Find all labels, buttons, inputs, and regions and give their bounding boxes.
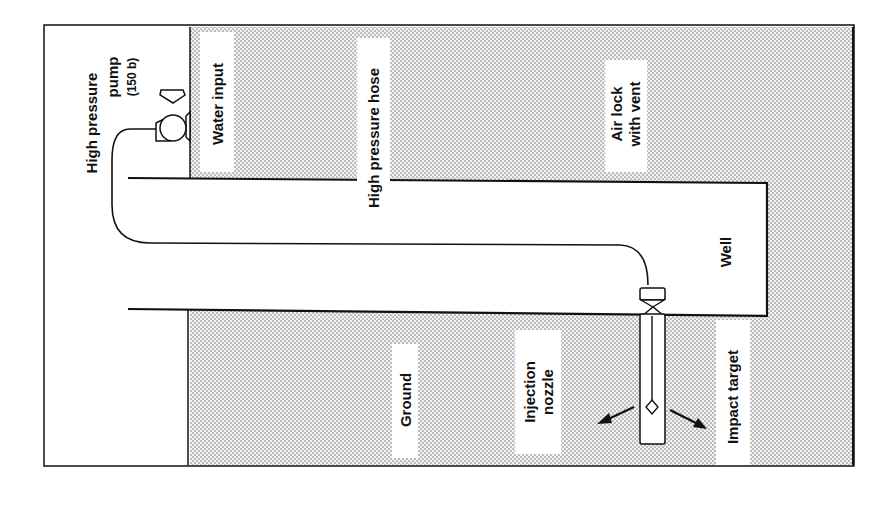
air-lock-label-line2: with vent xyxy=(626,81,643,147)
pump-label-line2: pump xyxy=(104,57,121,98)
nozzle-label-line1: Injection xyxy=(521,361,538,423)
well-label: Well xyxy=(717,237,734,268)
air-lock-label-line1: Air lock xyxy=(608,86,625,142)
nozzle-label-line2: nozzle xyxy=(539,369,556,415)
water-injection-diagram: High pressure pump (150 b) Water input H… xyxy=(0,0,876,510)
impact-target-label: Impact target xyxy=(724,350,741,444)
pump-label-line3: (150 b) xyxy=(125,58,139,97)
ground-label: Ground xyxy=(397,373,414,427)
water-input-label: Water input xyxy=(209,63,226,145)
hose-label: High pressure hose xyxy=(365,68,382,208)
pump-label-line1: High pressure xyxy=(83,73,100,174)
